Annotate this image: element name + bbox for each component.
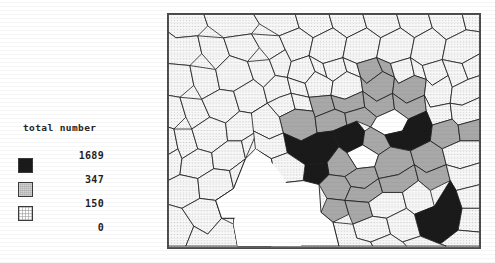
legend-title: total number <box>23 122 96 133</box>
legend-swatch-gray <box>18 182 33 197</box>
page-root: total number 1689 347 150 0 <box>0 0 495 263</box>
map-region <box>458 208 480 232</box>
map-frame <box>167 13 481 249</box>
legend-swatch-white <box>18 206 33 221</box>
choropleth-map <box>168 14 480 248</box>
map-regions <box>168 14 480 246</box>
legend-break-value: 0 <box>46 222 104 233</box>
map-legend: total number 1689 347 150 0 <box>0 0 165 263</box>
legend-body: 1689 347 150 0 <box>18 158 138 254</box>
legend-swatch-black <box>18 158 33 173</box>
